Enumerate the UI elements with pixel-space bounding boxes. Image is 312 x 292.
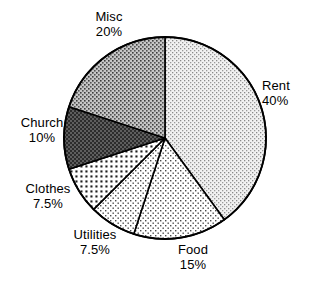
pie-slices	[64, 37, 266, 239]
pie-label-church-name: Church	[8, 116, 76, 131]
pie-label-rent-value: 40%	[262, 94, 308, 109]
pie-label-rent-name: Rent	[262, 79, 308, 94]
pie-label-clothes-name: Clothes	[12, 182, 84, 197]
pie-label-church: Church 10%	[8, 116, 76, 145]
pie-label-food: Food 15%	[162, 243, 224, 272]
pie-chart: Misc 20% Rent 40% Church 10% Clothes 7.5…	[0, 0, 312, 292]
pie-label-utilities-value: 7.5%	[56, 243, 134, 258]
pie-label-utilities: Utilities 7.5%	[56, 228, 134, 257]
pie-label-misc-value: 20%	[74, 25, 144, 40]
pie-label-food-name: Food	[162, 243, 224, 258]
pie-chart-svg	[0, 0, 312, 292]
pie-label-clothes: Clothes 7.5%	[12, 182, 84, 211]
pie-label-utilities-name: Utilities	[56, 228, 134, 243]
pie-label-church-value: 10%	[8, 131, 76, 146]
pie-label-clothes-value: 7.5%	[12, 197, 84, 212]
pie-label-rent: Rent 40%	[262, 79, 308, 108]
pie-label-food-value: 15%	[162, 258, 224, 273]
pie-label-misc-name: Misc	[74, 10, 144, 25]
pie-label-misc: Misc 20%	[74, 10, 144, 39]
